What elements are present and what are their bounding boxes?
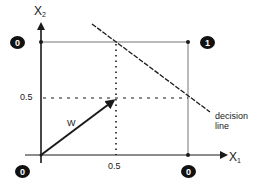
x-axis-label: X1 [229, 151, 241, 164]
badge-top-left: 0 [10, 36, 25, 49]
weight-vector-label: W [67, 119, 76, 128]
point-top-left-dot [39, 40, 43, 44]
weight-vector-arrow [41, 101, 113, 155]
y-tick-0.5: 0.5 [20, 93, 33, 102]
x-tick-0.5: 0.5 [108, 162, 121, 171]
decision-line [92, 24, 210, 112]
badge-bottom-right: 0 [181, 165, 196, 178]
point-top-right-dot [186, 40, 190, 44]
badge-top-right: 1 [200, 36, 215, 49]
y-axis-label: X2 [34, 5, 46, 18]
point-origin-dot [40, 154, 43, 157]
decision-boundary-diagram [0, 0, 268, 185]
point-bottom-right-dot [186, 153, 190, 157]
badge-origin: 0 [15, 165, 30, 178]
decision-line-label: decision line [215, 111, 248, 131]
